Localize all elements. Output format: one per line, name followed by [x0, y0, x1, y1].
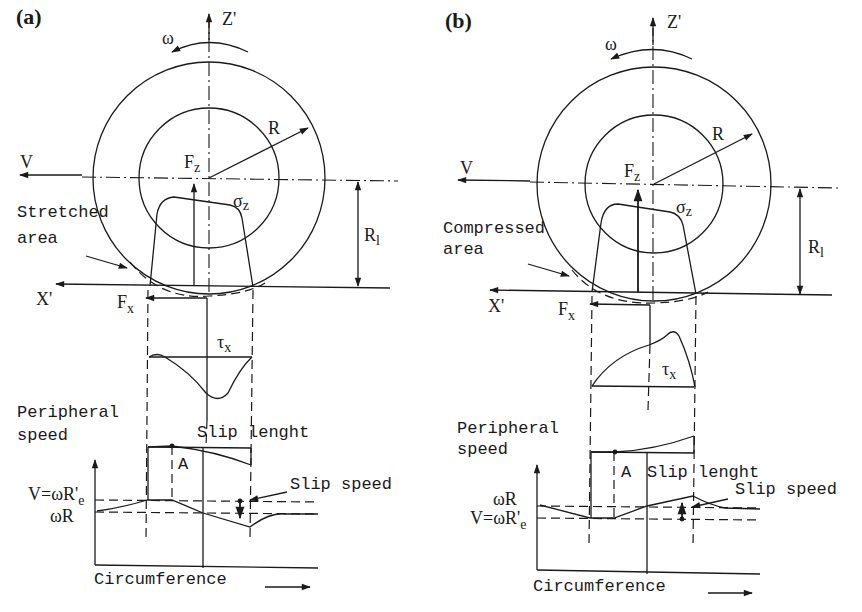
tau-baseline-b — [592, 386, 694, 387]
slip-speed-label-b: Slip speed — [735, 480, 837, 499]
peripheral-curve-a — [148, 446, 251, 465]
velocity-label-a: V — [20, 152, 33, 172]
panel-a-label: (a) — [16, 4, 42, 29]
radius-label-b: R — [712, 124, 724, 144]
panel-a: (a) Z' ω V R Fz σz X' Stretched area — [16, 4, 398, 589]
level-upper-line-a — [95, 500, 318, 502]
level-upper-label-b: ωR — [493, 489, 517, 509]
x-axis-label-a: X' — [36, 289, 52, 309]
center-dash-b — [648, 345, 650, 410]
level-upper-label-a: V=ωR'e — [28, 484, 84, 508]
level-lower-label-a: ωR — [50, 506, 74, 526]
fz-label-b: Fz — [624, 161, 640, 184]
normal-stress-profile-b — [592, 204, 696, 294]
velocity-label-b: V — [460, 158, 473, 178]
sigma-label-b: σz — [676, 197, 692, 219]
tire-slip-diagram: (a) Z' ω V R Fz σz X' Stretched area — [0, 0, 862, 612]
projection-right-a — [250, 290, 253, 540]
slip-length-label-a: Slip lenght — [197, 423, 309, 442]
slip-speed-pointer-a — [250, 492, 287, 500]
center-line-b — [530, 182, 838, 188]
x-axis-b — [490, 290, 832, 295]
x-axis-label-b: X' — [488, 296, 504, 316]
z-axis-label-b: Z' — [667, 12, 681, 32]
z-axis-label-a: Z' — [222, 9, 236, 29]
peripheral-curve-b — [591, 436, 694, 452]
loaded-radius-label-a: Rl — [364, 225, 380, 248]
point-a-marker-b — [613, 450, 618, 455]
panel-b-label: (b) — [445, 8, 472, 33]
speed-x-axis-b — [537, 570, 760, 574]
shear-stress-profile-a — [149, 355, 252, 399]
area-label-a-line1: Stretched — [17, 203, 109, 222]
omega-label-b: ω — [605, 34, 617, 54]
area-pointer-b — [528, 264, 569, 276]
peripheral-label-a-line2: speed — [17, 426, 68, 445]
shear-stress-profile-b — [592, 332, 695, 387]
circumference-label-a: Circumference — [94, 570, 227, 589]
point-a-label-a: A — [178, 455, 189, 474]
fx-label-b: Fx — [558, 299, 575, 323]
peripheral-label-b-line1: Peripheral — [457, 419, 559, 438]
sigma-label-a: σz — [233, 191, 249, 213]
projection-left-a — [146, 290, 148, 540]
level-lower-label-b: V=ωR'e — [470, 508, 526, 532]
center-line-a — [82, 177, 398, 181]
peripheral-label-b-line2: speed — [457, 440, 508, 459]
speed-x-axis-a — [95, 565, 318, 568]
slip-speed-pointer-b — [692, 499, 728, 507]
speed-box-top-a — [148, 447, 251, 448]
area-pointer-a — [86, 256, 127, 268]
circumference-label-b: Circumference — [533, 577, 666, 596]
area-label-a-line2: area — [17, 229, 58, 248]
projection-right-b — [693, 296, 696, 548]
peripheral-label-a-line1: Peripheral — [17, 403, 119, 422]
radius-arrow-b — [654, 134, 752, 184]
area-label-b-line1: Compressed — [443, 219, 545, 238]
fz-label-a: Fz — [184, 152, 200, 175]
velocity-arrow-b — [458, 180, 530, 181]
omega-arrow-a — [172, 43, 248, 53]
x-axis-a — [56, 284, 390, 288]
panel-b: (b) Z' ω V R Fz σz X' Compressed area — [443, 8, 838, 596]
point-a-label-b: A — [621, 463, 632, 482]
area-label-b-line2: area — [443, 240, 484, 259]
radius-arrow-a — [209, 128, 308, 178]
fx-arrow-b — [590, 304, 650, 305]
level-lower-line-b — [537, 518, 760, 520]
omega-arrow-b — [611, 50, 692, 60]
loaded-radius-label-b: Rl — [808, 237, 824, 260]
slip-speed-label-a: Slip speed — [290, 475, 392, 494]
tau-label-a: τx — [217, 332, 231, 355]
tau-label-b: τx — [662, 359, 676, 382]
omega-label-a: ω — [162, 28, 174, 48]
radius-label-a: R — [268, 118, 280, 138]
fx-label-a: Fx — [117, 292, 134, 316]
